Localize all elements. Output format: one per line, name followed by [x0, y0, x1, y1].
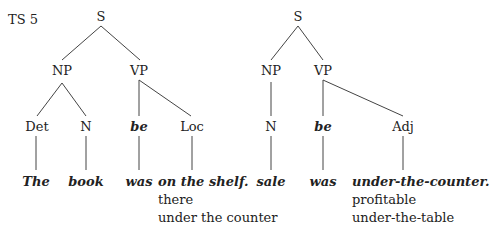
tree1-node-np: NP: [52, 64, 72, 77]
tree2-node-s: S: [294, 10, 303, 23]
tree1-word-was: was: [126, 175, 153, 188]
tree1-node-s: S: [97, 10, 106, 23]
figure-label: TS 5: [8, 13, 38, 26]
tree2-node-vp: VP: [314, 64, 332, 77]
tree2-word-was: was: [310, 175, 337, 188]
tree1-node-vp: VP: [130, 64, 148, 77]
tree2-node-adj: Adj: [392, 120, 414, 133]
tree1-word-on-the-shelf: on the shelf.: [158, 175, 249, 188]
tree2-node-np: NP: [261, 64, 281, 77]
tree1-alt-under-the-counter: under the counter: [158, 211, 278, 224]
tree2-word-under-the-counter: under-the-counter.: [352, 175, 490, 188]
tree1-node-be: be: [130, 120, 147, 133]
tree1-node-n: N: [80, 120, 91, 133]
tree1-node-loc: Loc: [180, 120, 204, 133]
tree1-word-book: book: [68, 175, 103, 188]
tree1-alt-there: there: [158, 193, 193, 206]
tree2-word-sale: sale: [257, 175, 286, 188]
tree2-alt-under-the-table: under-the-table: [352, 211, 454, 224]
tree1-word-the: The: [22, 175, 49, 188]
tree1-node-det: Det: [25, 120, 48, 133]
tree2-alt-profitable: profitable: [352, 193, 416, 206]
tree2-node-be: be: [314, 120, 331, 133]
tree2-node-n: N: [265, 120, 276, 133]
